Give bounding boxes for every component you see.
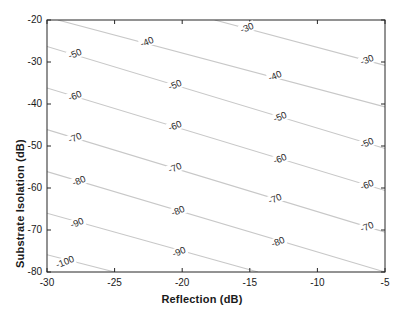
y-tick-label: -20	[2, 14, 42, 25]
y-tick-label: -40	[2, 98, 42, 109]
contour-plot-figure: -30-25-20-15-10-5-80-70-60-50-40-30-20-3…	[0, 0, 404, 313]
y-axis-title: Substrate Isolation (dB)	[14, 139, 26, 268]
x-axis-title: Reflection (dB)	[0, 293, 404, 305]
x-tick-label: -10	[297, 277, 337, 288]
x-tick-label: -15	[230, 277, 270, 288]
x-tick-label: -25	[95, 277, 135, 288]
x-tick-label: -30	[27, 277, 67, 288]
x-tick-label: -20	[162, 277, 202, 288]
x-tick-label: -5	[365, 277, 404, 288]
y-tick-label: -30	[2, 56, 42, 67]
